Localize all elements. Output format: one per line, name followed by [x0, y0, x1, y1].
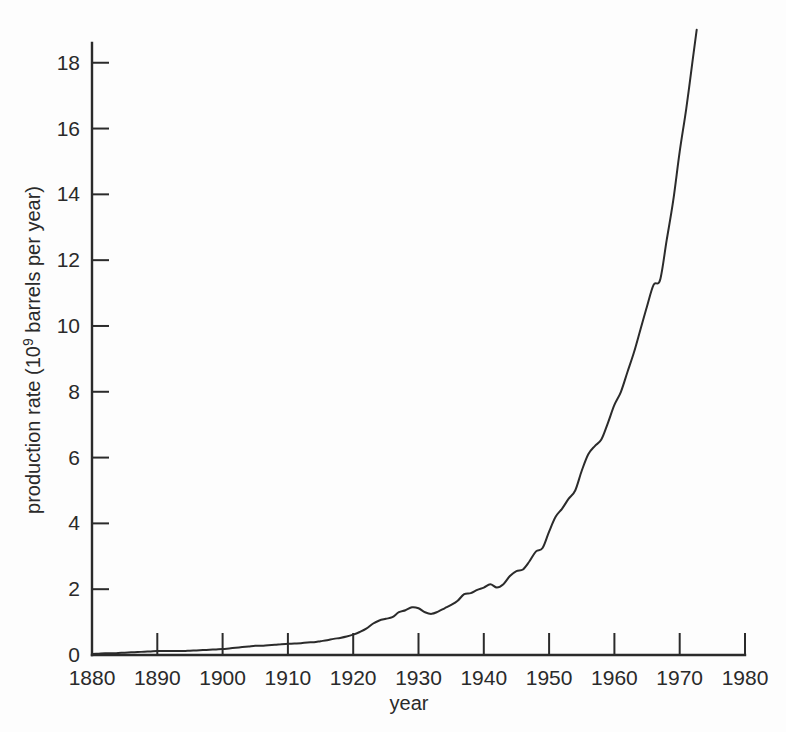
figure-container: 024681012141618 188018901900191019201930…	[0, 0, 786, 732]
y-tick-label: 6	[68, 446, 80, 469]
y-axis-title-exponent: 9	[20, 338, 36, 346]
x-axis-tick-labels: 1880189019001910192019301940195019601970…	[69, 666, 769, 689]
production-rate-line	[92, 30, 697, 654]
y-tick-label: 10	[57, 314, 80, 337]
x-tick-label: 1900	[199, 666, 246, 689]
x-tick-label: 1960	[591, 666, 638, 689]
y-tick-label: 16	[57, 117, 80, 140]
y-axis-title-tail: barrels per year)	[22, 186, 44, 338]
x-tick-label: 1920	[330, 666, 377, 689]
x-tick-label: 1950	[526, 666, 573, 689]
y-tick-label: 4	[68, 511, 80, 534]
y-axis-ticks	[92, 63, 109, 589]
axes-group	[92, 43, 745, 655]
y-tick-label: 0	[68, 643, 80, 666]
y-tick-label: 14	[57, 182, 81, 205]
y-axis-tick-labels: 024681012141618	[57, 51, 81, 666]
x-tick-label: 1980	[722, 666, 769, 689]
x-tick-label: 1910	[265, 666, 312, 689]
data-series-group	[92, 30, 697, 654]
x-tick-label: 1880	[69, 666, 116, 689]
svg-text:production rate (109 barrels p: production rate (109 barrels per year)	[20, 186, 44, 514]
y-axis-title-head: production rate (10	[22, 346, 44, 514]
x-tick-label: 1930	[395, 666, 442, 689]
y-tick-label: 2	[68, 577, 80, 600]
x-axis-title: year	[390, 692, 429, 714]
x-tick-label: 1890	[134, 666, 181, 689]
oil-production-chart: 024681012141618 188018901900191019201930…	[0, 0, 786, 732]
y-tick-label: 12	[57, 248, 80, 271]
x-tick-label: 1970	[656, 666, 703, 689]
y-tick-label: 18	[57, 51, 80, 74]
y-tick-label: 8	[68, 380, 80, 403]
x-tick-label: 1940	[460, 666, 507, 689]
y-axis-title: production rate (109 barrels per year)	[20, 186, 44, 514]
x-axis-ticks	[157, 633, 745, 655]
